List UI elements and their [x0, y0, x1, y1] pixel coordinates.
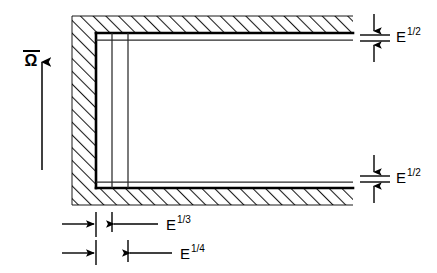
rotation-vector-label: Ω — [14, 50, 48, 69]
dimension-marker-e13 — [62, 212, 158, 237]
label-stewartson-e14: E1/4 — [180, 245, 204, 261]
wall-hatch-top — [72, 16, 353, 33]
label-e14-exponent: 1/4 — [191, 243, 205, 254]
label-stewartson-e13: E1/3 — [166, 216, 190, 232]
label-ekman-top-base: E — [396, 28, 406, 45]
container-wall-outline — [96, 33, 353, 188]
label-e14-base: E — [180, 245, 190, 262]
boundary-layer-diagram — [0, 0, 437, 273]
label-ekman-bottom: E1/2 — [396, 169, 420, 185]
dimension-marker-bottom-right — [360, 155, 390, 203]
dimension-marker-top-right — [360, 14, 390, 62]
label-e13-exponent: 1/3 — [177, 214, 191, 225]
omega-symbol: Ω — [14, 53, 48, 69]
wall-hatch-edges — [72, 16, 353, 205]
rigid-wall-hatching — [72, 16, 353, 205]
label-ekman-bottom-base: E — [396, 169, 406, 186]
label-e13-base: E — [166, 216, 176, 233]
ekman-layer-lines — [96, 40, 353, 182]
wall-hatch-bottom — [72, 188, 353, 205]
figure-canvas: Ω E1/2 E1/2 E1/3 E1/4 — [0, 0, 437, 273]
label-ekman-bottom-exponent: 1/2 — [407, 167, 421, 178]
dimension-marker-e14 — [62, 240, 172, 265]
label-ekman-top-exponent: 1/2 — [407, 26, 421, 37]
label-ekman-top: E1/2 — [396, 28, 420, 44]
stewartson-layer-lines — [112, 33, 128, 188]
wall-hatch-left — [72, 16, 96, 205]
